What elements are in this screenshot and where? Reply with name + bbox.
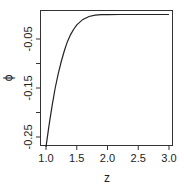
x-tick-label: 3.0 <box>161 152 176 164</box>
y-tick-label: -0.25 <box>22 124 34 149</box>
x-tick-label: 2.0 <box>100 152 115 164</box>
x-axis: 1.01.52.02.53.0 <box>38 146 176 165</box>
y-tick-label: -0.05 <box>22 26 34 51</box>
y-axis: -0.25-0.15-0.05 <box>22 26 41 149</box>
x-tick-label: 1.0 <box>38 152 53 164</box>
plot-frame <box>41 11 173 146</box>
y-axis-label: ϕ <box>1 74 15 81</box>
x-tick-label: 1.5 <box>69 152 84 164</box>
x-axis-label: z <box>104 171 110 185</box>
phi-curve <box>46 15 169 147</box>
y-tick-label: -0.15 <box>22 75 34 100</box>
line-chart: 1.01.52.02.53.0 -0.25-0.15-0.05 z ϕ <box>0 0 184 186</box>
x-tick-label: 2.5 <box>131 152 146 164</box>
